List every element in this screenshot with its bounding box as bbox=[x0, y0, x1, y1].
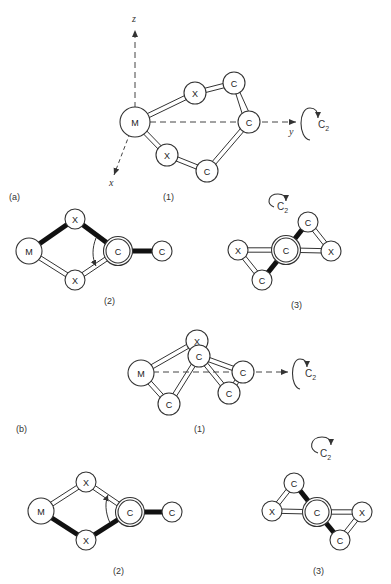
c2-rotation-arrow-icon bbox=[301, 108, 310, 140]
atom-symbol: C bbox=[259, 276, 266, 286]
atom-x: X bbox=[65, 270, 85, 290]
atom-symbol: C bbox=[226, 389, 233, 399]
atom-x: X bbox=[65, 209, 85, 229]
atom-symbol: X bbox=[269, 507, 275, 517]
atom-c: C bbox=[158, 393, 180, 415]
atom-c: C bbox=[272, 236, 301, 265]
atom-symbol: X bbox=[83, 478, 89, 488]
panel-a-view-2: MXCCX (2) bbox=[16, 209, 172, 306]
atom-c: C bbox=[223, 72, 245, 94]
atom-c: C bbox=[238, 111, 260, 133]
view-label: (1) bbox=[194, 424, 205, 434]
panel-b-view-2: MXCCX (2) bbox=[28, 472, 182, 576]
atoms: XCCXC bbox=[262, 473, 372, 550]
atom-c: C bbox=[218, 382, 240, 404]
atom-x: X bbox=[228, 240, 248, 260]
atom-symbol: M bbox=[131, 118, 139, 128]
atom-symbol: M bbox=[137, 369, 145, 379]
atom-c: C bbox=[196, 160, 218, 182]
atom-symbol: C bbox=[231, 79, 238, 89]
atom-x: X bbox=[321, 241, 341, 261]
atom-c: C bbox=[330, 530, 350, 550]
atom-symbol: C bbox=[291, 479, 298, 489]
atom-x: X bbox=[352, 502, 372, 522]
atom-symbol: M bbox=[37, 507, 45, 517]
atom-c: C bbox=[188, 345, 210, 367]
atoms: XCXCC bbox=[228, 212, 341, 290]
atom-m: M bbox=[120, 107, 150, 137]
view-label: (2) bbox=[104, 296, 115, 306]
panel-a-view-3: C2 XCXCC (3) bbox=[228, 194, 341, 310]
atom-symbol: C bbox=[166, 400, 173, 410]
c2-symbol: C2 bbox=[305, 368, 316, 381]
c2-symbol: C2 bbox=[277, 201, 288, 214]
atom-c: C bbox=[162, 502, 182, 522]
c2-symbol: C2 bbox=[320, 448, 331, 461]
atom-symbol: C bbox=[115, 247, 122, 257]
atom-symbol: X bbox=[192, 89, 198, 99]
atom-x: X bbox=[76, 530, 96, 550]
view-label: (3) bbox=[291, 300, 302, 310]
atom-x: X bbox=[262, 501, 282, 521]
atom-symbol: C bbox=[305, 218, 312, 228]
atom-symbol: C bbox=[283, 246, 290, 256]
panel-label-b: (b) bbox=[16, 424, 27, 434]
panel-a-view-1: z y x C2 MXCCXC (1) bbox=[108, 13, 329, 202]
atom-x: X bbox=[156, 144, 178, 166]
view-label: (3) bbox=[313, 566, 324, 576]
atom-c: C bbox=[252, 270, 272, 290]
atom-symbol: C bbox=[127, 508, 134, 518]
atom-symbol: X bbox=[164, 151, 170, 161]
atom-symbol: X bbox=[83, 536, 89, 546]
c2-rotation-arrow-icon bbox=[293, 359, 301, 389]
atom-c: C bbox=[284, 473, 304, 493]
view-label: (2) bbox=[113, 566, 124, 576]
atom-symbol: C bbox=[314, 508, 321, 518]
atom-c: C bbox=[232, 361, 254, 383]
rotation-arrow-icon bbox=[93, 238, 96, 266]
atom-x: X bbox=[184, 82, 206, 104]
atom-m: M bbox=[28, 498, 54, 524]
atom-symbol: C bbox=[246, 118, 253, 128]
panel-label-a: (a) bbox=[9, 192, 20, 202]
atom-symbol: M bbox=[25, 247, 33, 257]
atom-symbol: C bbox=[337, 536, 344, 546]
atom-symbol: C bbox=[169, 508, 176, 518]
y-axis-label: y bbox=[288, 126, 294, 137]
atom-c: C bbox=[116, 498, 145, 527]
atom-symbol: C bbox=[159, 247, 166, 257]
x-axis bbox=[114, 133, 130, 175]
atom-m: M bbox=[16, 238, 42, 264]
atom-symbol: X bbox=[235, 246, 241, 256]
z-axis-label: z bbox=[131, 13, 136, 24]
atom-x: X bbox=[76, 472, 96, 492]
c2-symbol: C2 bbox=[318, 119, 329, 132]
atom-c: C bbox=[303, 498, 332, 527]
atom-symbol: X bbox=[359, 508, 365, 518]
atom-symbol: X bbox=[328, 247, 334, 257]
atom-m: M bbox=[128, 360, 154, 386]
atom-symbol: X bbox=[72, 276, 78, 286]
atom-c: C bbox=[298, 212, 318, 232]
atom-symbol: C bbox=[204, 167, 211, 177]
panel-b-view-1: MXCCCC C2 (1) bbox=[128, 330, 316, 434]
view-label: (1) bbox=[163, 192, 174, 202]
atom-c: C bbox=[104, 237, 133, 266]
x-axis-label: x bbox=[108, 177, 114, 188]
atoms: MXCCXC bbox=[120, 72, 260, 182]
atom-symbol: C bbox=[196, 352, 203, 362]
molecular-symmetry-diagram: z y x C2 MXCCXC (1) (a) MXCCX (2) C2 XCX… bbox=[0, 0, 391, 584]
atom-symbol: X bbox=[72, 215, 78, 225]
panel-b-view-3: C2 XCCXC (3) bbox=[262, 437, 372, 576]
atom-symbol: C bbox=[240, 368, 247, 378]
atom-c: C bbox=[152, 241, 172, 261]
bonds bbox=[28, 219, 162, 282]
